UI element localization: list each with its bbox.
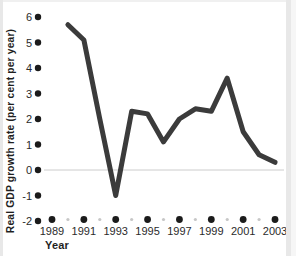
y-tick-dot (35, 167, 41, 173)
x-axis-ticks: 19891991199319951997199920012003 (40, 216, 288, 236)
y-tick-dot (35, 14, 41, 20)
x-minor-tick-dot (66, 218, 69, 221)
page-edge-left (0, 0, 3, 256)
x-tick-label: 1991 (72, 225, 96, 237)
y-axis-ticks: 6543210-1-2 (22, 11, 41, 227)
y-tick-label: -1 (22, 190, 32, 202)
x-axis-title: Year (45, 239, 70, 251)
x-tick-label: 1997 (167, 225, 191, 237)
x-minor-tick-dot (130, 218, 133, 221)
x-major-tick-dot (176, 216, 183, 223)
x-major-tick-dot (240, 216, 247, 223)
y-tick-dot (35, 192, 41, 198)
y-tick-label: 5 (26, 37, 32, 49)
y-tick-dot (35, 141, 41, 147)
x-minor-tick-dot (194, 218, 197, 221)
y-tick-label: 4 (26, 62, 32, 74)
y-tick-label: 3 (26, 88, 32, 100)
x-minor-tick-dot (257, 218, 260, 221)
real-gdp-growth-line-chart: 6543210-1-2 1989199119931995199719992001… (0, 0, 296, 256)
chart-page: 6543210-1-2 1989199119931995199719992001… (0, 0, 296, 256)
y-tick-label: 1 (26, 139, 32, 151)
x-major-tick-dot (112, 216, 119, 223)
y-tick-label: 6 (26, 11, 32, 23)
x-minor-tick-dot (226, 218, 229, 221)
y-tick-dot (35, 39, 41, 45)
y-tick-label: -2 (22, 215, 32, 227)
y-tick-dot (35, 90, 41, 96)
x-minor-tick-dot (162, 218, 165, 221)
page-edge-top (0, 0, 296, 2)
y-tick-dot (35, 116, 41, 122)
y-tick-label: 0 (26, 164, 32, 176)
x-tick-label: 2003 (263, 225, 287, 237)
y-tick-dot (35, 218, 41, 224)
y-tick-label: 2 (26, 113, 32, 125)
x-major-tick-dot (272, 216, 279, 223)
x-major-tick-dot (49, 216, 56, 223)
x-tick-label: 1999 (199, 225, 223, 237)
y-axis-title: Real GDP growth rate (per cent per year) (5, 29, 16, 233)
x-tick-label: 2001 (231, 225, 255, 237)
x-tick-label: 1993 (103, 225, 127, 237)
x-major-tick-dot (80, 216, 87, 223)
x-tick-label: 1995 (135, 225, 159, 237)
page-edge-right-outer (291, 0, 296, 256)
x-major-tick-dot (144, 216, 151, 223)
y-tick-dot (35, 65, 41, 71)
x-minor-tick-dot (98, 218, 101, 221)
x-major-tick-dot (208, 216, 215, 223)
x-tick-label: 1989 (40, 225, 64, 237)
